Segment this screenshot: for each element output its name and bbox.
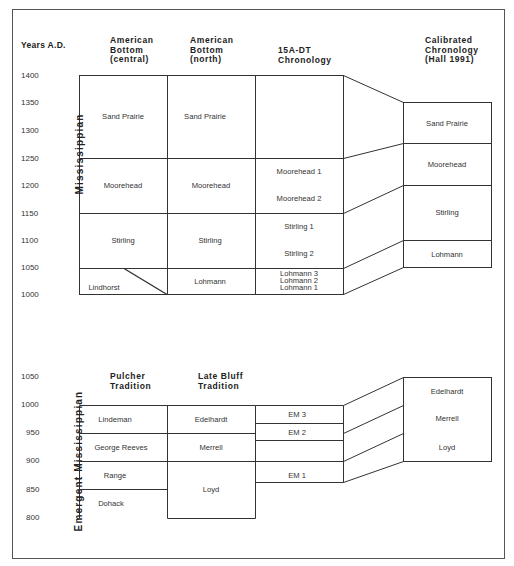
cell-late-bluff-loyd: Loyd <box>203 485 219 494</box>
cell-central-stirling: Stirling <box>111 236 134 245</box>
cell-north-stirling: Stirling <box>198 236 221 245</box>
tick-lower-800: 800 <box>26 513 66 522</box>
cell-pulcher-dohack: Dohack <box>98 499 124 508</box>
cell-north-sand-prairie: Sand Prairie <box>184 112 226 121</box>
cell-pulcher-george-reeves: George Reeves <box>94 443 147 452</box>
tick-1000: 1000 <box>21 290 61 299</box>
tick-1100: 1100 <box>21 236 61 245</box>
cell-pulcher-lindeman: Lindeman <box>98 415 131 424</box>
axis-title: Years A.D. <box>21 41 66 51</box>
header-american-bottom-north: American Bottom (north) <box>190 36 234 65</box>
cell-north-lohmann: Lohmann <box>194 277 226 286</box>
period-label-emergent-mississippian: Emergent Mississippian <box>73 386 85 536</box>
cell-calibrated-lohmann: Lohmann <box>431 250 463 259</box>
cell-calibrated-moorehead: Moorehead <box>428 160 466 169</box>
cell-central-moorehead: Moorehead <box>104 181 142 190</box>
tick-lower-850: 850 <box>26 485 66 494</box>
tick-1250: 1250 <box>21 154 61 163</box>
header-calibrated-chronology: Calibrated Chronology (Hall 1991) <box>425 36 479 65</box>
header-pulcher-tradition: Pulcher Tradition <box>110 372 151 391</box>
cell-north-moorehead: Moorehead <box>192 181 230 190</box>
tick-lower-1050: 1050 <box>21 372 61 381</box>
tick-1050: 1050 <box>21 263 61 272</box>
tick-lower-900: 900 <box>26 456 66 465</box>
tick-1150: 1150 <box>21 209 61 218</box>
cell-calibrated-stirling: Stirling <box>435 208 458 217</box>
cell-em-2: EM 2 <box>288 428 306 437</box>
tick-lower-1000: 1000 <box>21 400 61 409</box>
cell-calibrated-loyd: Loyd <box>439 443 455 452</box>
header-american-bottom-central: American Bottom (central) <box>110 36 154 65</box>
cell-15a-stirling-2: Stirling 2 <box>284 249 314 258</box>
cell-15a-moorehead-1: Moorehead 1 <box>277 167 322 176</box>
cell-central-lindhorst: Lindhorst <box>88 283 119 292</box>
cell-em-3: EM 3 <box>288 410 306 419</box>
cell-15a-lohmann-1: Lohmann 1 <box>280 284 318 291</box>
cell-15a-moorehead-2: Moorehead 2 <box>277 194 322 203</box>
cell-central-sand-prairie: Sand Prairie <box>102 112 144 121</box>
cell-late-bluff-edelhardt: Edelhardt <box>195 415 228 424</box>
header-15a-dt-chronology: 15A-DT Chronology <box>278 46 332 65</box>
cell-late-bluff-merrell: Merrell <box>199 443 222 452</box>
cell-15a-stirling-1: Stirling 1 <box>284 222 314 231</box>
header-late-bluff-tradition: Late Bluff Tradition <box>198 372 243 391</box>
cell-pulcher-range: Range <box>104 471 126 480</box>
tick-1350: 1350 <box>21 98 61 107</box>
cell-calibrated-sand-prairie: Sand Prairie <box>426 119 468 128</box>
tick-1200: 1200 <box>21 181 61 190</box>
tick-lower-950: 950 <box>26 428 66 437</box>
cell-em-1: EM 1 <box>288 471 306 480</box>
cell-calibrated-merrell: Merrell <box>435 414 458 423</box>
period-label-mississippian: Mississippian <box>74 104 86 204</box>
cell-calibrated-edelhardt: Edelhardt <box>431 387 464 396</box>
tick-1400: 1400 <box>21 71 61 80</box>
tick-1300: 1300 <box>21 126 61 135</box>
